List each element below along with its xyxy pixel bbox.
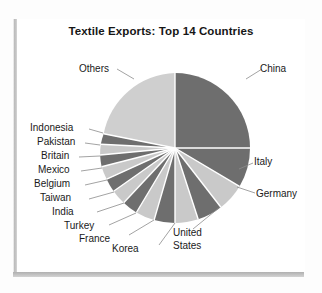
pie-label-taiwan: Taiwan — [40, 192, 71, 204]
frame-bottom-shadow — [13, 272, 304, 277]
pie-label-korea: Korea — [112, 243, 139, 255]
pie-label-turkey: Turkey — [64, 220, 94, 232]
pie-label-germany: Germany — [256, 188, 297, 200]
pie-label-mexico: Mexico — [38, 164, 70, 176]
page-root: Textile Exports: Top 14 Countries — [0, 0, 322, 293]
pie-label-britain: Britain — [41, 150, 69, 162]
pie-label-united-states-line2: States — [173, 240, 201, 252]
pie-label-india: India — [52, 206, 74, 218]
pie-label-france: France — [79, 233, 110, 245]
pie-slice-china[interactable] — [175, 73, 250, 148]
pie-label-italy: Italy — [254, 156, 272, 168]
pie-label-china: China — [260, 63, 286, 75]
chart-card: Textile Exports: Top 14 Countries — [17, 19, 305, 272]
pie-label-belgium: Belgium — [34, 178, 70, 190]
pie-chart: China Others Indonesia Pakistan Britain … — [17, 19, 305, 272]
pie-label-indonesia: Indonesia — [30, 122, 73, 134]
pie-label-pakistan: Pakistan — [37, 136, 75, 148]
pie-label-united-states-line1: United — [173, 227, 202, 239]
pie-label-others: Others — [79, 63, 109, 75]
